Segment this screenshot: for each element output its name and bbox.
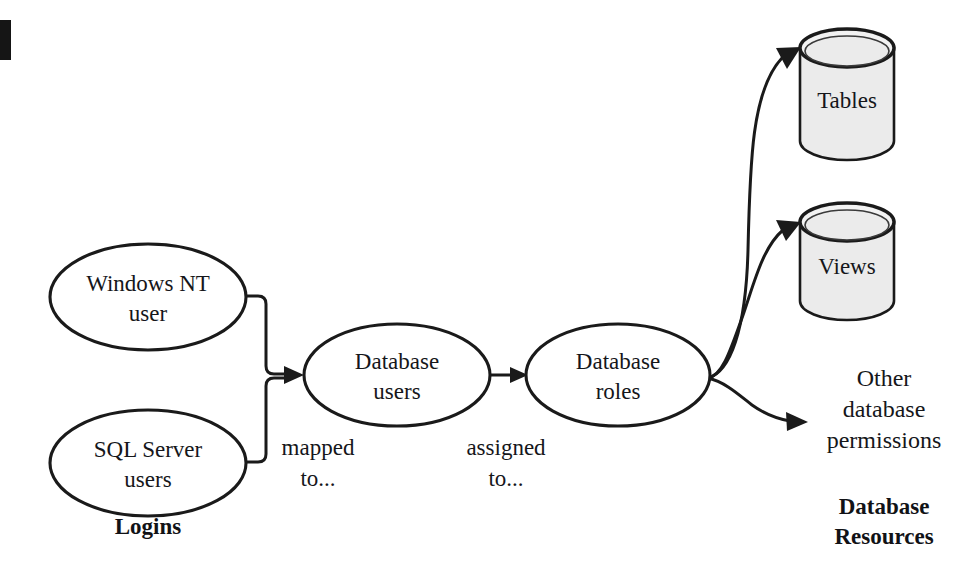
node-database-users-label-line2: users [373, 379, 420, 404]
node-database-users-label-line1: Database [355, 349, 439, 374]
node-tables-cylinder-top-inner [805, 36, 889, 66]
node-views-cylinder[interactable]: Views [800, 203, 894, 320]
connector-curve-views [708, 230, 783, 378]
node-database-roles-label-line2: roles [596, 379, 641, 404]
node-windows-nt-user-label-line2: user [129, 301, 168, 326]
node-sql-server-users-label-line2: users [124, 467, 171, 492]
arrowhead-to-database-users [284, 366, 304, 384]
node-database-roles-label-line1: Database [576, 349, 660, 374]
group-label-logins: Logins [115, 514, 182, 539]
connector-roles-to-tables [708, 47, 801, 378]
group-label-database-resources-line1: Database [839, 494, 930, 519]
node-database-roles-shape [526, 324, 710, 426]
connector-users-to-roles [491, 367, 528, 383]
group-label-logins-text: Logins [115, 514, 182, 539]
group-label-database-resources-line2: Resources [834, 524, 933, 549]
arrowhead-to-tables [776, 47, 801, 69]
node-views-label: Views [818, 254, 875, 279]
edge-label-mapped-to-line2: to... [300, 466, 335, 491]
edge-label-assigned-to: assigned to... [466, 435, 546, 491]
other-permissions-line3: permissions [827, 427, 942, 453]
node-database-roles[interactable]: Database roles [526, 324, 710, 426]
other-permissions-line2: database [843, 396, 926, 422]
edge-label-assigned-to-line2: to... [488, 466, 523, 491]
node-database-users[interactable]: Database users [304, 324, 490, 426]
node-database-users-shape [304, 324, 490, 426]
arrowhead-to-other-permissions [786, 412, 808, 431]
arrowhead-to-views [776, 220, 801, 241]
security-model-diagram: Windows NT user SQL Server users Databas… [0, 0, 973, 577]
node-other-database-permissions: Other database permissions [827, 365, 942, 453]
node-windows-nt-user-label-line1: Windows NT [86, 271, 210, 296]
connector-windows-nt-branch [246, 296, 288, 374]
edge-label-mapped-to: mapped to... [282, 435, 355, 491]
node-windows-nt-user-shape [50, 244, 246, 350]
other-permissions-line1: Other [857, 365, 912, 391]
connector-roles-to-views [708, 220, 801, 378]
node-sql-server-users-label-line1: SQL Server [94, 437, 203, 462]
node-tables-label: Tables [817, 88, 877, 113]
node-tables-cylinder[interactable]: Tables [800, 29, 894, 160]
node-sql-server-users[interactable]: SQL Server users [50, 410, 246, 516]
edge-label-mapped-to-line1: mapped [282, 435, 355, 460]
connector-curve-tables [708, 58, 782, 378]
edge-label-assigned-to-line1: assigned [466, 435, 546, 460]
group-label-database-resources: Database Resources [834, 494, 933, 549]
connector-curve-other [708, 378, 790, 421]
node-windows-nt-user[interactable]: Windows NT user [50, 244, 246, 350]
node-views-cylinder-top-inner [805, 210, 889, 240]
node-sql-server-users-shape [50, 410, 246, 516]
connector-roles-to-other-permissions [708, 378, 808, 431]
diagram-canvas: Windows NT user SQL Server users Databas… [0, 0, 973, 577]
